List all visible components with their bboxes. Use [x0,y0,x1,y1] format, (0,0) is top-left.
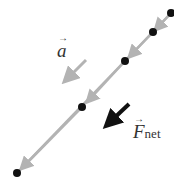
acceleration-symbol: a [57,40,67,61]
net-force-arrow-icon [110,104,129,122]
force-symbol: F [133,121,145,142]
net-force-label: →Fnet [133,121,161,143]
motion-diagram [0,0,174,179]
acceleration-arrow-icon [68,60,86,78]
vector-arrow-icon: → [134,113,144,124]
acceleration-label: →a [57,40,67,62]
force-subscript: net [145,126,161,141]
vector-arrow-icon: → [58,32,68,43]
